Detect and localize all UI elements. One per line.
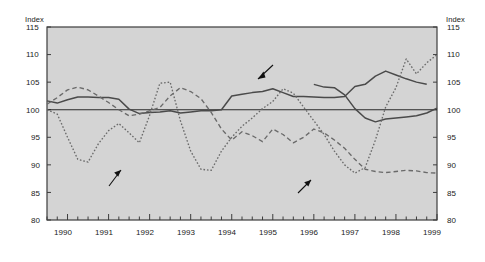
chart-container: Index Index 115 110 105 100 95 90 85 80 … — [0, 0, 485, 262]
plot-area — [0, 0, 485, 262]
plot-background — [47, 27, 437, 220]
